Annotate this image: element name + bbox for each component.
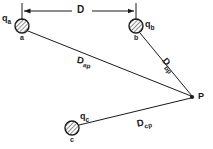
field-point-label-P: P xyxy=(198,92,204,101)
node-label-a: a xyxy=(20,34,24,41)
charge-circle-b xyxy=(129,19,143,33)
field-point-marker xyxy=(190,95,194,99)
distance-label-Dap: Dap xyxy=(76,55,93,70)
charge-circle-c xyxy=(65,121,79,135)
charge-diagram: D qa a qb b qc c Dap Dbp Dcp P xyxy=(0,0,213,149)
dimension-label-D: D xyxy=(77,5,84,15)
charge-label-qa: qa xyxy=(2,14,11,25)
charge-circle-a xyxy=(15,19,29,33)
charge-label-qc: qc xyxy=(80,112,89,123)
diagram-canvas xyxy=(0,0,213,149)
node-label-b: b xyxy=(134,34,138,41)
distance-line-cp xyxy=(79,98,191,125)
charge-label-qb: qb xyxy=(145,20,154,31)
node-label-c: c xyxy=(70,136,74,143)
